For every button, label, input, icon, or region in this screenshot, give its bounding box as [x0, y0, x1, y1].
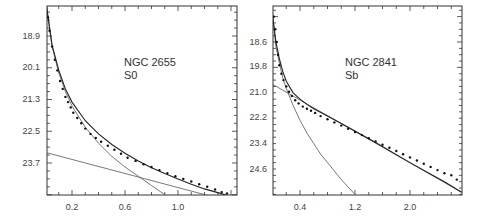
data-point: [273, 15, 275, 17]
data-point: [54, 59, 56, 61]
data-point: [84, 127, 86, 129]
data-point: [310, 110, 312, 112]
data-point: [333, 121, 335, 123]
data-point: [113, 149, 115, 151]
data-point: [166, 172, 168, 174]
data-point: [76, 117, 78, 119]
y-tick-label: 24.6: [249, 164, 267, 174]
figure: NGC 2655 S0 18.9 20.1 21.3 22.5 23.7 0.2…: [0, 0, 486, 224]
data-point: [285, 85, 287, 87]
data-point: [150, 166, 152, 168]
data-point: [198, 183, 200, 185]
data-point: [326, 118, 328, 120]
data-point: [278, 64, 280, 66]
data-point: [46, 3, 48, 5]
data-points: [273, 15, 458, 180]
data-point: [340, 124, 342, 126]
sum-fit-line: [273, 15, 462, 193]
data-point: [409, 156, 411, 158]
data-point: [80, 122, 82, 124]
galaxy-name: NGC 2655: [124, 56, 176, 68]
data-point: [221, 191, 223, 193]
data-point: [100, 141, 102, 143]
data-point: [62, 88, 64, 90]
data-point: [354, 131, 356, 133]
y-tick-label: 18.9: [22, 31, 40, 41]
y-tick-label: 21.3: [22, 94, 40, 104]
data-point: [67, 101, 69, 103]
x-tick-label: 2.0: [404, 202, 417, 212]
y-tick-label: 21.0: [249, 87, 267, 97]
data-point: [56, 69, 58, 71]
data-point: [182, 178, 184, 180]
y-tick-label: 19.8: [249, 61, 267, 71]
disk-fit-line: [46, 152, 216, 197]
bulge-fit-line: [273, 15, 356, 195]
sum-fit-line: [46, 0, 234, 197]
galaxy-type: Sb: [345, 69, 358, 81]
data-point: [214, 188, 216, 190]
data-point: [226, 192, 228, 194]
data-point: [288, 91, 290, 93]
data-point: [302, 105, 304, 107]
data-point: [72, 112, 74, 114]
x-tick-label: 1.2: [349, 202, 362, 212]
data-point: [89, 133, 91, 135]
fit-curves: [273, 15, 462, 195]
data-point: [347, 128, 349, 130]
data-point: [120, 153, 122, 155]
data-point: [450, 174, 452, 176]
data-point: [70, 106, 72, 108]
data-point: [59, 80, 61, 82]
data-point: [436, 169, 438, 171]
plot-frame: [47, 6, 237, 195]
data-point: [456, 178, 458, 180]
data-point: [47, 16, 49, 18]
data-point: [51, 45, 53, 47]
x-tick-label: 0.6: [119, 202, 132, 212]
bulge-fit-line: [46, 0, 169, 197]
data-point: [48, 30, 50, 32]
data-point: [142, 163, 144, 165]
panel-ngc2655: NGC 2655 S0 18.9 20.1 21.3 22.5 23.7 0.2…: [22, 0, 237, 212]
data-point: [280, 73, 282, 75]
data-point: [174, 175, 176, 177]
data-point: [429, 166, 431, 168]
data-point: [368, 137, 370, 139]
data-point: [291, 95, 293, 97]
x-tick-label: 1.0: [172, 202, 185, 212]
data-point: [416, 159, 418, 161]
x-tick-label: 0.4: [294, 202, 307, 212]
data-point: [395, 150, 397, 152]
data-points: [46, 3, 233, 197]
data-point: [402, 153, 404, 155]
tick-marks: [47, 6, 237, 195]
panel-ngc2841: NGC 2841 Sb 18.6 19.8 21.0 22.2 23.4 24.…: [249, 6, 462, 212]
y-tick-label: 22.2: [249, 112, 267, 122]
data-point: [275, 41, 277, 43]
data-point: [277, 54, 279, 56]
galaxy-name: NGC 2841: [345, 56, 397, 68]
data-point: [64, 96, 66, 98]
data-point: [297, 102, 299, 104]
data-point: [126, 157, 128, 159]
fit-curves: [46, 0, 234, 197]
data-point: [206, 186, 208, 188]
data-point: [381, 144, 383, 146]
data-point: [190, 180, 192, 182]
data-point: [95, 137, 97, 139]
data-point: [134, 160, 136, 162]
data-point: [282, 79, 284, 81]
data-point: [294, 99, 296, 101]
y-tick-label: 23.7: [22, 158, 40, 168]
data-point: [314, 112, 316, 114]
data-point: [319, 115, 321, 117]
y-tick-label: 18.6: [249, 37, 267, 47]
data-point: [388, 147, 390, 149]
data-point: [158, 169, 160, 171]
x-tick-label: 0.2: [66, 202, 79, 212]
y-tick-label: 23.4: [249, 138, 267, 148]
y-tick-label: 22.5: [22, 126, 40, 136]
data-point: [274, 28, 276, 30]
data-point: [306, 108, 308, 110]
